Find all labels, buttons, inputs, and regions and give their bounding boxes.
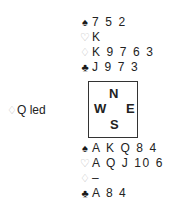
south-clubs-row: ♣ A 8 4 — [78, 186, 164, 201]
north-clubs-row: ♣ J 9 7 3 — [78, 60, 154, 75]
opening-lead-text: Q led — [17, 103, 46, 117]
north-spades-cards: 7 5 2 — [92, 15, 127, 30]
compass-box: N W E S — [88, 81, 138, 138]
north-spades-row: ♠ 7 5 2 — [78, 15, 154, 30]
south-spades-row: ♠ A K Q 8 4 — [78, 141, 164, 156]
compass-west-label: W — [94, 102, 106, 115]
opening-lead: ♢Q led — [7, 103, 46, 118]
compass-south-label: S — [110, 118, 119, 131]
south-spades-cards: A K Q 8 4 — [92, 141, 158, 156]
south-diamonds-cards: – — [92, 171, 100, 186]
south-hearts-row: ♡ A Q J 10 6 — [78, 156, 164, 171]
compass-north-label: N — [109, 87, 118, 100]
north-hand: ♠ 7 5 2 ♡ K ♢ K 9 7 6 3 ♣ J 9 7 3 — [78, 15, 154, 75]
south-diamonds-row: ♢ – — [78, 171, 164, 186]
heart-icon: ♡ — [78, 30, 92, 45]
heart-icon: ♡ — [78, 156, 92, 171]
south-hand: ♠ A K Q 8 4 ♡ A Q J 10 6 ♢ – ♣ A 8 4 — [78, 141, 164, 201]
south-clubs-cards: A 8 4 — [92, 186, 127, 201]
north-hearts-cards: K — [92, 30, 102, 45]
diamond-icon: ♢ — [7, 103, 17, 118]
north-diamonds-row: ♢ K 9 7 6 3 — [78, 45, 154, 60]
spade-icon: ♠ — [78, 141, 92, 156]
south-hearts-cards: A Q J 10 6 — [92, 156, 164, 171]
club-icon: ♣ — [78, 186, 92, 201]
club-icon: ♣ — [78, 60, 92, 75]
diamond-icon: ♢ — [78, 45, 92, 60]
compass-east-label: E — [126, 102, 135, 115]
spade-icon: ♠ — [78, 15, 92, 30]
north-clubs-cards: J 9 7 3 — [92, 60, 139, 75]
north-hearts-row: ♡ K — [78, 30, 154, 45]
diamond-icon: ♢ — [78, 171, 92, 186]
north-diamonds-cards: K 9 7 6 3 — [92, 45, 154, 60]
